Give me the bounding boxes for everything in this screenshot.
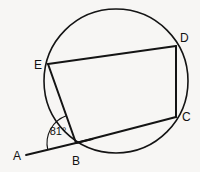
segment-ed	[48, 46, 176, 64]
vertex-label-d: D	[180, 31, 189, 45]
geometry-canvas: A B C D E 81°	[0, 0, 200, 172]
vertex-label-b: B	[72, 154, 80, 168]
segment-ab-ray	[26, 139, 93, 155]
vertex-label-c: C	[182, 110, 191, 124]
geometry-figure: A B C D E 81°	[0, 0, 200, 172]
vertex-label-e: E	[34, 58, 42, 72]
vertex-label-a: A	[13, 149, 21, 163]
angle-measure-label: 81°	[50, 125, 67, 137]
